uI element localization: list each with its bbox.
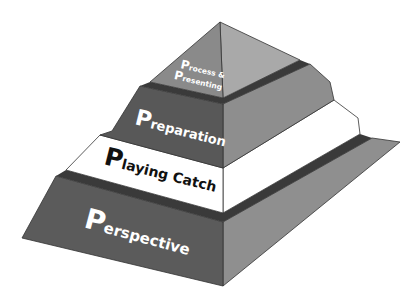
pyramid-diagram: Process & Presenting Preparation Playing… [0,0,418,303]
pyramid-graphic: Process & Presenting Preparation Playing… [0,0,418,303]
